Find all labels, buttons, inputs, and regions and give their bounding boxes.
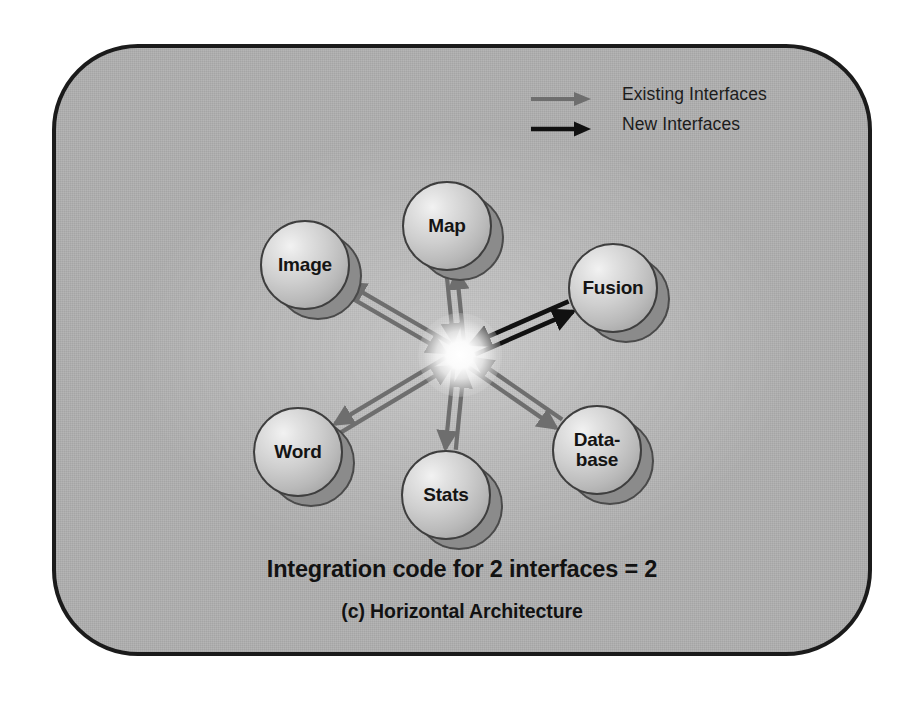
node-image[interactable]: Image — [260, 220, 350, 310]
legend-item-existing: Existing Interfaces — [530, 84, 800, 114]
arrow-right-icon — [530, 120, 592, 138]
caption-integration-code: Integration code for 2 interfaces = 2 — [52, 556, 872, 583]
node-word[interactable]: Word — [253, 407, 343, 497]
legend-item-new: New Interfaces — [530, 114, 800, 144]
legend-label-existing: Existing Interfaces — [622, 84, 767, 105]
caption-architecture-title: (c) Horizontal Architecture — [52, 600, 872, 623]
node-fusion[interactable]: Fusion — [568, 243, 658, 333]
node-map[interactable]: Map — [402, 181, 492, 271]
node-label: Word — [253, 407, 343, 497]
node-database[interactable]: Data-base — [552, 405, 642, 495]
node-label: Image — [260, 220, 350, 310]
legend: Existing Interfaces New Interfaces — [530, 84, 800, 144]
node-label: Data-base — [552, 405, 642, 495]
node-stats[interactable]: Stats — [401, 450, 491, 540]
node-label: Map — [402, 181, 492, 271]
legend-label-new: New Interfaces — [622, 114, 740, 135]
node-label: Fusion — [568, 243, 658, 333]
figure-stage: ImageMapFusionWordStatsData-base Existin… — [0, 0, 919, 717]
arrow-right-icon — [530, 90, 592, 108]
node-label: Stats — [401, 450, 491, 540]
